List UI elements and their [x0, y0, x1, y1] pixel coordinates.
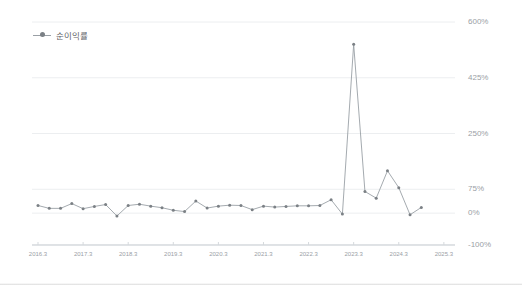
data-point [82, 207, 85, 210]
series-line [38, 44, 421, 216]
data-point [251, 208, 254, 211]
data-point [115, 215, 118, 218]
x-axis-tick-label: 2020.3 [198, 251, 238, 257]
data-point [386, 169, 389, 172]
x-axis-tick-label: 2023.3 [334, 251, 374, 257]
data-point [363, 190, 366, 193]
y-axis-tick-label: -100% [468, 240, 491, 249]
plot-area [0, 0, 522, 285]
net-profit-margin-chart: 순이익률 600%425%250%75%0%-100% 2016.32017.3… [0, 0, 522, 285]
data-point [409, 213, 412, 216]
gridlines [32, 22, 455, 245]
data-point [228, 204, 231, 207]
x-axis-tick-label: 2016.3 [18, 251, 58, 257]
y-axis-tick-label: 600% [468, 17, 488, 26]
data-point [138, 203, 141, 206]
data-point [37, 204, 40, 207]
data-point [93, 205, 96, 208]
data-point [206, 207, 209, 210]
data-point [194, 200, 197, 203]
data-point [104, 203, 107, 206]
data-point [127, 204, 130, 207]
data-point [285, 205, 288, 208]
data-point [296, 204, 299, 207]
data-point [397, 186, 400, 189]
x-axis-tick-label: 2018.3 [108, 251, 148, 257]
x-axis [32, 242, 455, 245]
x-axis-tick-label: 2025.3 [424, 251, 464, 257]
data-point [273, 206, 276, 209]
y-axis-tick-label: 250% [468, 129, 488, 138]
data-point [70, 202, 73, 205]
x-axis-tick-label: 2021.3 [243, 251, 283, 257]
x-axis-tick-label: 2019.3 [153, 251, 193, 257]
data-point [318, 204, 321, 207]
x-axis-tick-label: 2022.3 [289, 251, 329, 257]
data-point [217, 205, 220, 208]
data-point [341, 213, 344, 216]
y-axis-tick-label: 425% [468, 73, 488, 82]
y-axis-tick-label: 0% [468, 208, 480, 217]
series-points [37, 43, 423, 218]
x-axis-tick-label: 2024.3 [379, 251, 419, 257]
data-point [172, 209, 175, 212]
data-point [59, 207, 62, 210]
data-point [48, 207, 51, 210]
data-point [161, 206, 164, 209]
data-point [330, 198, 333, 201]
y-axis-tick-label: 75% [468, 184, 484, 193]
data-point [352, 43, 355, 46]
x-axis-tick-label: 2017.3 [63, 251, 103, 257]
data-point [262, 205, 265, 208]
data-point [149, 205, 152, 208]
data-point [183, 210, 186, 213]
data-point [307, 204, 310, 207]
data-point [420, 206, 423, 209]
data-point [239, 204, 242, 207]
data-point [375, 197, 378, 200]
